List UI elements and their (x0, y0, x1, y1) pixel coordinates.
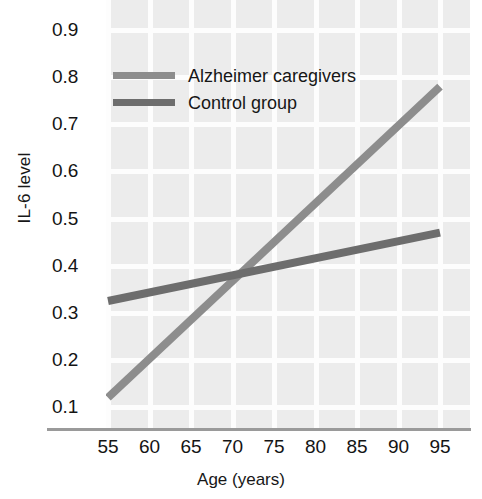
y-axis-title: IL-6 level (15, 108, 35, 268)
y-tick-label: 0.5 (52, 209, 102, 228)
y-tick-label: 0.1 (52, 397, 102, 416)
y-tick-label: 0.8 (52, 67, 102, 86)
x-axis-tick-labels: 556065707580859095 (0, 437, 482, 465)
x-axis-title: Age (years) (0, 470, 482, 490)
x-tick-label: 80 (296, 437, 336, 456)
legend-label: Control group (188, 94, 297, 112)
x-tick-label: 60 (130, 437, 170, 456)
y-tick-label: 0.4 (52, 256, 102, 275)
chart-legend: Alzheimer caregiversControl group (113, 62, 413, 116)
x-axis-line (47, 428, 471, 431)
legend-color-swatch (113, 99, 175, 106)
y-axis-tick-labels: 0.90.80.70.60.50.40.30.20.1 (52, 0, 102, 430)
x-tick-label: 75 (254, 437, 294, 456)
x-tick-label: 55 (88, 437, 128, 456)
il6-age-line-chart: IL-6 level 0.90.80.70.60.50.40.30.20.1 5… (0, 0, 482, 499)
x-tick-label: 65 (171, 437, 211, 456)
y-tick-label: 0.2 (52, 350, 102, 369)
y-tick-label: 0.7 (52, 114, 102, 133)
y-tick-label: 0.9 (52, 20, 102, 39)
legend-item[interactable]: Control group (113, 89, 413, 116)
legend-label: Alzheimer caregivers (188, 67, 356, 85)
x-tick-label: 95 (420, 437, 460, 456)
y-tick-label: 0.3 (52, 303, 102, 322)
x-tick-label: 70 (213, 437, 253, 456)
x-tick-label: 90 (379, 437, 419, 456)
x-tick-label: 85 (337, 437, 377, 456)
legend-item[interactable]: Alzheimer caregivers (113, 62, 413, 89)
legend-color-swatch (113, 72, 175, 79)
y-tick-label: 0.6 (52, 161, 102, 180)
